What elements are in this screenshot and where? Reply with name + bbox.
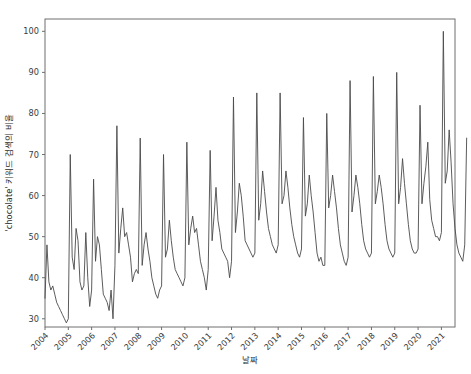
y-tick-label: 30: [29, 314, 39, 324]
y-tick-label: 90: [29, 67, 39, 77]
chocolate-search-interest-line-chart: 30405060708090100 2004200520062007200820…: [0, 0, 471, 374]
y-tick-label: 40: [29, 273, 39, 283]
y-tick-label: 100: [23, 26, 39, 36]
y-axis-title: 'chocolate' 키워드 검색의 비율: [4, 114, 14, 231]
y-tick-label: 80: [29, 108, 39, 118]
y-tick-label: 60: [29, 191, 39, 201]
y-tick-label: 50: [29, 232, 39, 242]
chart-figure: 30405060708090100 2004200520062007200820…: [0, 0, 471, 374]
y-tick-label: 70: [29, 150, 39, 160]
x-axis-title: 날짜: [242, 355, 258, 365]
